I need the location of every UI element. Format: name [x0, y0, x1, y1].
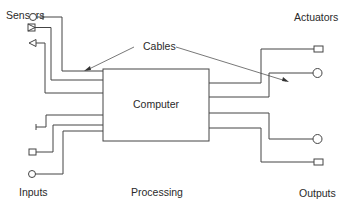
- sensor-1: [30, 14, 104, 72]
- square-input-icon: [29, 149, 36, 155]
- sensor-3: [29, 40, 103, 94]
- circle-input-icon: [29, 171, 36, 178]
- cables-arrows: [84, 47, 289, 82]
- computer-label: Computer: [133, 98, 180, 110]
- output-2: [209, 128, 323, 165]
- system-diagram: Sensors Actuators Cables Computer Inputs…: [0, 0, 358, 210]
- arrowhead-right-icon: [282, 77, 289, 82]
- actuator-1: [209, 46, 323, 83]
- square-actuator-icon: [314, 46, 323, 52]
- circle-output-icon: [313, 135, 322, 144]
- outputs-label: Outputs: [299, 187, 336, 199]
- input-1: [36, 115, 103, 130]
- square-output-icon: [314, 159, 323, 165]
- arrowhead-left-icon: [84, 66, 91, 71]
- cables-label: Cables: [143, 40, 176, 52]
- input-3: [29, 131, 104, 178]
- circle-sensor-icon: [30, 14, 37, 21]
- input-2: [29, 125, 103, 155]
- sensors-label: Sensors: [6, 9, 45, 21]
- inputs-label: Inputs: [19, 186, 48, 198]
- sensor-2: [28, 24, 103, 80]
- circle-actuator-icon: [313, 69, 322, 78]
- triangle-sensor-icon: [29, 40, 36, 47]
- actuators-label: Actuators: [294, 11, 338, 23]
- processing-label: Processing: [131, 186, 183, 198]
